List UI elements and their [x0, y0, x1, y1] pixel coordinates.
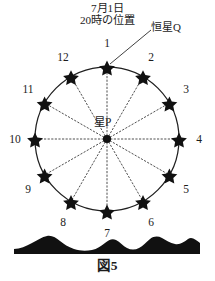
position-number-1: 1 [104, 37, 110, 49]
star-marker-7 [99, 205, 115, 220]
position-number-12: 12 [57, 51, 69, 63]
star-marker-9 [37, 169, 53, 184]
star-marker-3 [162, 97, 178, 112]
position-number-5: 5 [183, 183, 189, 195]
star-q-leader-line [110, 30, 151, 64]
position-number-10: 10 [9, 133, 21, 145]
figure-caption: 図5 [0, 259, 215, 274]
label-star-p: 星P [94, 116, 111, 128]
observation-hour: 20時の位置 [0, 14, 215, 26]
position-number-3: 3 [183, 83, 189, 95]
star-marker-11 [37, 97, 53, 112]
ray-to-9 [45, 139, 107, 175]
label-star-q: 恒星Q [151, 22, 181, 34]
position-number-8: 8 [60, 216, 66, 228]
figure-container: 7月1日 20時の位置 恒星Q 星P 1 2 3 4 5 6 7 8 9 10 … [0, 0, 215, 281]
ray-to-5 [107, 139, 169, 175]
position-number-9: 9 [25, 183, 31, 195]
observation-time-note: 7月1日 20時の位置 [0, 2, 215, 26]
ray-to-3 [107, 103, 169, 139]
star-marker-5 [162, 169, 178, 184]
ray-to-2 [107, 77, 143, 139]
position-number-11: 11 [22, 83, 33, 95]
ray-to-12 [71, 77, 107, 139]
position-number-7: 7 [104, 227, 110, 239]
star-marker-12 [63, 70, 79, 85]
observation-date: 7月1日 [0, 2, 215, 14]
position-number-2: 2 [148, 51, 154, 63]
star-marker-2 [135, 70, 151, 85]
ray-to-6 [107, 139, 143, 201]
position-number-6: 6 [148, 216, 154, 228]
ray-to-8 [71, 139, 107, 201]
position-number-4: 4 [196, 133, 202, 145]
center-star-p-dot [103, 135, 111, 143]
